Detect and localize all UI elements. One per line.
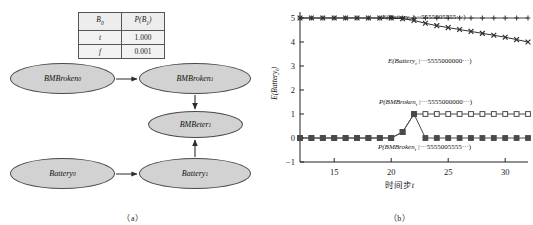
marker-square-filled xyxy=(514,136,519,141)
marker-square-filled xyxy=(298,136,303,141)
node-label: Battery xyxy=(49,169,73,178)
marker-square-filled xyxy=(389,136,394,141)
marker-square-open xyxy=(434,112,439,117)
node-sub: 0 xyxy=(78,76,81,82)
y-tick-label: 0 xyxy=(291,133,295,143)
marker-square-filled xyxy=(343,136,348,141)
marker-square-filled xyxy=(412,112,417,117)
marker-square-filled xyxy=(491,136,496,141)
chart-area: E(Batteryt) −101234515202530 时间步t E(Batt… xyxy=(266,0,533,200)
node-bmbroken1[interactable]: BMBroken1 xyxy=(139,63,251,94)
marker-plus xyxy=(514,16,519,21)
marker-square-filled xyxy=(377,136,382,141)
series-line xyxy=(300,114,528,138)
marker-square-filled xyxy=(526,136,531,141)
marker-square-open xyxy=(457,112,462,117)
node-label: BMBeter xyxy=(180,120,209,129)
marker-square-filled xyxy=(366,136,371,141)
marker-square-filled xyxy=(355,136,360,141)
series-line xyxy=(300,114,528,138)
marker-square-open xyxy=(469,112,474,117)
marker-square-open xyxy=(514,112,519,117)
marker-square-filled xyxy=(457,136,462,141)
series-label-battery-5555005555: E(Batteryt |···5555005555···) xyxy=(382,13,466,22)
marker-plus xyxy=(503,16,508,21)
y-tick-label: 3 xyxy=(291,61,295,71)
marker-square-open xyxy=(526,112,531,117)
series-label-bmbroken-5555000000: P(BMBrokent |···5555000000···) xyxy=(379,98,472,107)
x-tick-label: 30 xyxy=(501,167,510,177)
marker-square-open xyxy=(491,112,496,117)
x-tick-label: 20 xyxy=(387,167,396,177)
y-tick-label: 5 xyxy=(291,13,295,23)
chart-xlabel: 时间步t xyxy=(266,178,533,190)
series-label-bmbroken-5555005555: P(BMBrokent |···5555005555···) xyxy=(378,143,471,152)
marker-square-filled xyxy=(332,136,337,141)
marker-square-open xyxy=(446,112,451,117)
y-tick-label: 2 xyxy=(291,85,295,95)
node-sub: 0 xyxy=(73,171,76,177)
panel-a-caption: （a） xyxy=(0,212,266,223)
marker-square-filled xyxy=(400,130,405,135)
marker-square-filled xyxy=(446,136,451,141)
node-bmbroken0[interactable]: BMBroken0 xyxy=(10,63,115,94)
x-tick-label: 25 xyxy=(444,167,453,177)
marker-square-filled xyxy=(469,136,474,141)
y-tick-label: −1 xyxy=(286,157,295,167)
panel-b-caption: （b） xyxy=(266,212,533,223)
marker-square-open xyxy=(480,112,485,117)
marker-square-open xyxy=(423,112,428,117)
node-sub: 1 xyxy=(209,122,212,128)
marker-square-open xyxy=(503,112,508,117)
panel-b-chart: E(Batteryt) −101234515202530 时间步t E(Batt… xyxy=(266,0,533,225)
y-tick-label: 4 xyxy=(291,37,296,47)
marker-plus xyxy=(491,16,496,21)
dbn-graph: BMBroken0 BMBroken1 BMBeter1 Battery0 Ba… xyxy=(0,0,266,200)
series-label-battery-5555000000: E(Batteryt |···5555000000···) xyxy=(388,57,472,66)
node-label: Battery xyxy=(182,169,206,178)
chart-ylabel: E(Batteryt) xyxy=(270,48,281,118)
marker-square-filled xyxy=(503,136,508,141)
marker-plus xyxy=(480,16,485,21)
marker-square-filled xyxy=(423,136,428,141)
marker-square-filled xyxy=(309,136,314,141)
marker-square-filled xyxy=(480,136,485,141)
node-label: BMBroken xyxy=(176,74,210,83)
node-label: BMBroken xyxy=(44,74,78,83)
node-bmbeter1[interactable]: BMBeter1 xyxy=(148,111,243,138)
marker-square-filled xyxy=(320,136,325,141)
node-sub: 1 xyxy=(211,76,214,82)
marker-square-filled xyxy=(434,136,439,141)
node-sub: 1 xyxy=(205,171,208,177)
panel-a-dbn: B0 P(B1) t 1.000 f 0.001 xyxy=(0,0,266,225)
marker-plus xyxy=(469,16,474,21)
node-battery1[interactable]: Battery1 xyxy=(139,158,251,189)
figure-container: B0 P(B1) t 1.000 f 0.001 xyxy=(0,0,533,225)
node-battery0[interactable]: Battery0 xyxy=(10,158,115,189)
x-tick-label: 15 xyxy=(330,167,339,177)
marker-plus xyxy=(526,16,531,21)
y-tick-label: 1 xyxy=(291,109,295,119)
